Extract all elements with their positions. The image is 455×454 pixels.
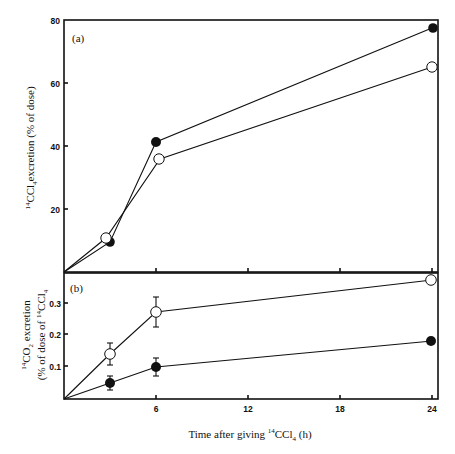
a-ytick-40: 40: [51, 142, 61, 152]
a-ylabel: 14CCl4excretion (% of dose): [24, 86, 39, 210]
b-ytick-0.1: 0.1: [49, 362, 61, 372]
a-open-point: [101, 233, 111, 243]
b-open-line: [64, 280, 432, 399]
b-ylabel-line1: 14CO2 excretion: [20, 300, 35, 370]
a-filled-line: [64, 28, 432, 272]
a-filled-point: [428, 23, 438, 33]
b-filled-point: [151, 362, 161, 372]
xtick-18: 18: [335, 404, 345, 414]
x-axis-label: Time after giving 14CCl4 (h): [188, 427, 311, 443]
panel-b-label: (b): [70, 282, 83, 295]
xtick-24: 24: [427, 404, 437, 414]
b-open-point: [151, 307, 162, 318]
a-filled-point: [151, 137, 161, 147]
b-filled-point: [105, 378, 115, 388]
panel-b: 0.1 0.2 0.3 6 12 18 24 (b): [49, 273, 438, 414]
b-open-point: [426, 275, 437, 286]
xtick-12: 12: [243, 404, 253, 414]
b-filled-point: [426, 336, 436, 346]
b-ytick-0.2: 0.2: [49, 330, 61, 340]
a-ytick-60: 60: [51, 79, 61, 89]
b-ytick-0.3: 0.3: [49, 299, 61, 309]
panel-a-frame: [64, 20, 438, 272]
b-ylabel-line2: (% of dose of 14CCl4: [35, 289, 50, 380]
a-open-point: [154, 154, 164, 164]
xtick-6: 6: [154, 404, 159, 414]
panel-b-frame: [64, 273, 438, 399]
a-open-line: [64, 67, 432, 272]
panel-a: 80 60 40 20 (a): [51, 16, 438, 272]
panel-a-label: (a): [72, 32, 85, 45]
a-ytick-80: 80: [51, 16, 61, 26]
b-filled-line: [64, 341, 432, 399]
b-open-point: [105, 349, 116, 360]
a-ytick-20: 20: [51, 205, 61, 215]
chart-figure: 80 60 40 20 (a) 0.1 0.2 0.3 6 12: [0, 0, 455, 454]
a-open-point: [427, 62, 437, 72]
